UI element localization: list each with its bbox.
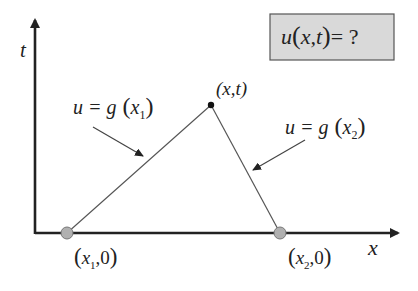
left-characteristic-line xyxy=(67,105,211,233)
left-pointer-arrow xyxy=(93,127,143,156)
question-func: u xyxy=(281,24,292,49)
apex-point-label: (x,t) xyxy=(216,78,247,100)
question-open-paren: ( xyxy=(292,21,301,50)
question-eq: = ? xyxy=(331,24,359,49)
left-line-label: u = g (x1) xyxy=(73,93,153,123)
question-args: x,t xyxy=(301,24,322,49)
question-close-paren: ) xyxy=(322,21,331,50)
apex-point-marker xyxy=(208,102,214,108)
base-point-x2-marker xyxy=(274,227,286,239)
t-axis-label: t xyxy=(20,38,26,63)
right-characteristic-line xyxy=(211,105,280,233)
right-line-label: u = g (x2) xyxy=(285,113,365,143)
left-line-lhs: u = g xyxy=(73,96,117,118)
base-point-x2-label: (x2,0) xyxy=(288,244,332,271)
base-point-x1-marker xyxy=(61,227,73,239)
right-pointer-arrow xyxy=(253,140,305,170)
base-point-x1-label: (x1,0) xyxy=(74,244,118,271)
right-line-lhs: u = g xyxy=(285,116,329,138)
x-axis-label: x xyxy=(368,235,378,261)
question-text: u(x,t)= ? xyxy=(281,21,358,51)
characteristics-diagram: t x u(x,t)= ? (x,t) u = g (x1) u = g (x2… xyxy=(0,0,418,291)
